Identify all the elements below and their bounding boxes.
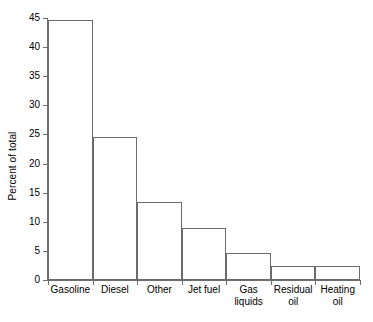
bar [93, 137, 138, 280]
y-tick-label: 45 [14, 13, 40, 23]
y-tick-mark [43, 47, 48, 48]
y-tick-label: 25 [14, 129, 40, 139]
x-axis-line [47, 280, 361, 281]
y-tick-label: 5 [14, 246, 40, 256]
y-tick-mark [43, 193, 48, 194]
y-tick-mark [43, 164, 48, 165]
y-tick-mark [43, 222, 48, 223]
y-tick-mark [43, 18, 48, 19]
bar [137, 202, 182, 280]
bar [271, 266, 316, 280]
y-tick-mark [43, 251, 48, 252]
y-tick-label: 35 [14, 71, 40, 81]
bar [315, 266, 360, 280]
plot-area [48, 18, 360, 280]
bar [48, 20, 93, 280]
y-tick-label: 15 [14, 188, 40, 198]
x-category-label-line: oil [308, 296, 368, 308]
y-tick-mark [43, 105, 48, 106]
y-tick-mark [43, 76, 48, 77]
x-category-label: Heatingoil [308, 284, 368, 307]
y-tick-label: 30 [14, 100, 40, 110]
y-tick-label: 10 [14, 217, 40, 227]
y-tick-mark [43, 134, 48, 135]
bar [182, 228, 227, 280]
y-tick-label: 40 [14, 42, 40, 52]
y-tick-label: 20 [14, 159, 40, 169]
x-category-label-line: Heating [308, 284, 368, 296]
bar-chart: Percent of total 051015202530354045 Gaso… [0, 0, 373, 322]
bar [226, 253, 271, 280]
y-tick-label: 0 [14, 275, 40, 285]
